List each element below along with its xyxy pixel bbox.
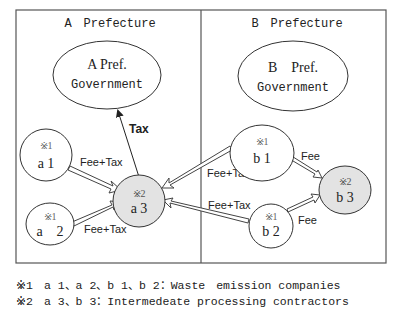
a2-mark: ※1	[44, 211, 57, 222]
a3-mark: ※2	[133, 188, 146, 199]
a-gov-line1: A Pref.	[87, 57, 127, 72]
a2-label: a 2	[36, 224, 63, 239]
b1-mark: ※1	[256, 136, 269, 147]
node-a1	[20, 129, 72, 181]
arrow-a1-to-a3	[68, 166, 121, 193]
a3-label: a 3	[131, 201, 148, 216]
legend: ※1 a 1、a 2、b 1、b 2：Waste emission compan…	[16, 278, 396, 310]
arrow-b2-to-b3	[287, 194, 320, 212]
b3-label: b 3	[336, 190, 354, 205]
tax-label: Tax	[129, 122, 149, 136]
b2-label: b 2	[262, 224, 280, 239]
legend-note-1: ※1 a 1、a 2、b 1、b 2：Waste emission compan…	[16, 278, 396, 294]
b1-label: b 1	[253, 151, 271, 166]
edge-label-a2-a3: Fee+Tax	[84, 223, 127, 235]
a1-mark: ※1	[40, 140, 53, 151]
b-gov-line1: B Pref.	[268, 60, 318, 75]
b2-mark: ※1	[265, 211, 278, 222]
b-gov-line2: Government	[257, 81, 329, 95]
edge-label-b2-b3: Fee	[298, 214, 317, 226]
a-gov-line2: Government	[71, 78, 143, 92]
edge-label-b1-b3: Fee	[301, 150, 320, 162]
region-a-title: A Prefecture	[64, 17, 155, 31]
a-pref-government-node	[53, 41, 161, 109]
b3-mark: ※2	[339, 176, 352, 187]
edge-label-a1-a3: Fee+Tax	[80, 156, 123, 168]
b-pref-government-node	[238, 41, 348, 111]
region-b-title: B Prefecture	[251, 17, 342, 31]
a1-label: a 1	[38, 156, 55, 171]
legend-note-2: ※2 a 3、b 3：Intermedeate processing contr…	[16, 294, 396, 310]
edge-label-b2-a3: Fee+Tax	[208, 199, 251, 211]
diagram-canvas: A Prefecture B Prefecture A Pref. Govern…	[0, 0, 402, 323]
